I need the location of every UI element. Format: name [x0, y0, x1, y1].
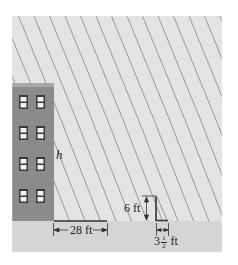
building-window	[36, 95, 45, 109]
building-window	[36, 126, 45, 140]
post-shadow-label-whole: 3	[154, 234, 160, 248]
post-shadow-label-unit: ft	[171, 234, 178, 248]
building-window	[19, 95, 28, 109]
building-window	[19, 189, 28, 203]
post-height-label: 6 ft	[124, 202, 140, 214]
building-window	[36, 157, 45, 171]
building	[12, 83, 54, 221]
building-roof-band	[12, 83, 54, 87]
ground	[12, 221, 222, 252]
building-shadow-label: 28 ft	[69, 224, 93, 236]
fraction-denominator: 2	[161, 243, 167, 250]
building-window	[36, 189, 45, 203]
fraction-half: 12	[161, 235, 167, 250]
building-height-label: h	[56, 149, 63, 161]
building-window	[19, 157, 28, 171]
shadow-diagram	[0, 0, 238, 265]
post-shadow-label: 312 ft	[154, 235, 178, 250]
building-window	[19, 126, 28, 140]
